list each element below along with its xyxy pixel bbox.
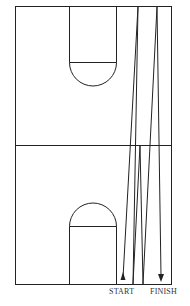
- finish-arrow-icon: [158, 274, 164, 282]
- top-free-throw-circle: [70, 63, 117, 86]
- court-diagram: [0, 0, 190, 306]
- top-lane: [70, 7, 117, 63]
- start-arrow-icon: [121, 272, 126, 280]
- bottom-lane: [70, 227, 117, 285]
- bottom-free-throw-circle: [70, 203, 117, 226]
- start-label: START: [109, 287, 134, 296]
- finish-label: FINISH: [150, 287, 177, 296]
